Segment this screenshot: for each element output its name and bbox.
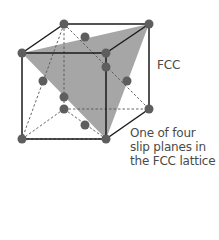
caption-line-1: One of four [130,126,219,140]
caption: One of four slip planes in the FCC latti… [130,126,219,168]
structure-label: FCC [157,58,180,72]
caption-line-2: slip planes in [130,140,219,154]
caption-line-3: the FCC lattice [130,154,219,168]
